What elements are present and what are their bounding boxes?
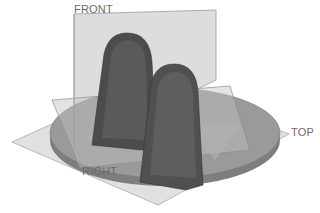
3d-model-viewport[interactable]: FRONT TOP RIGHT [0, 0, 320, 213]
model-graphics[interactable] [0, 0, 320, 213]
right-plane-label[interactable]: RIGHT [82, 166, 117, 177]
top-plane-label[interactable]: TOP [291, 127, 314, 138]
front-plane-label[interactable]: FRONT [74, 4, 113, 15]
